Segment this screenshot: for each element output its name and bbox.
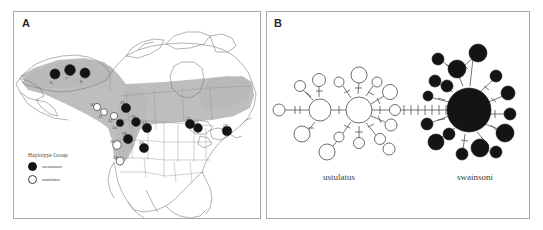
haplotype-node	[428, 134, 444, 150]
haplotype-node	[448, 60, 466, 78]
haplotype-node	[441, 80, 453, 92]
site-marker	[116, 119, 123, 126]
filled-circle-icon	[28, 162, 37, 171]
ustulatus-cluster-nodes	[273, 67, 401, 160]
site-marker	[80, 68, 90, 78]
legend-title: Haplotype Group	[28, 152, 68, 158]
haplotype-node	[429, 75, 441, 87]
panel-a-distribution-map: A	[13, 11, 261, 219]
legend-label-ustulatus: ustulatus	[42, 177, 60, 182]
haplotype-node-hub	[309, 99, 331, 121]
svg-text:16: 16	[131, 114, 136, 119]
site-marker	[50, 69, 60, 79]
svg-text:11: 11	[98, 114, 103, 119]
svg-text:14: 14	[112, 125, 117, 130]
svg-text:21: 21	[186, 116, 191, 121]
haplotype-node	[334, 132, 344, 142]
haplotype-node	[423, 91, 433, 101]
haplotype-node	[334, 77, 344, 87]
haplotype-node	[432, 53, 444, 65]
network-svg	[267, 12, 529, 218]
haplotype-node	[501, 86, 515, 100]
north-america-map: 6 7 8 10 11 12 13 14 16 17 18 19 20 15	[14, 12, 260, 218]
haplotype-node	[456, 148, 468, 160]
open-circle-icon	[28, 175, 37, 184]
taxon-label-ustulatus: ustulatus	[323, 172, 355, 182]
haplotype-node	[385, 119, 397, 131]
figure-container: A	[0, 0, 543, 230]
svg-text:17: 17	[142, 120, 147, 125]
haplotype-node	[313, 74, 326, 87]
haplotype-node	[390, 105, 401, 116]
haplotype-node-hub	[447, 88, 491, 132]
swainsoni-cluster-nodes	[421, 44, 516, 160]
svg-text:20: 20	[110, 139, 115, 144]
haplotype-node	[273, 104, 285, 116]
svg-text:19: 19	[139, 140, 144, 145]
haplotype-node	[496, 124, 514, 142]
haplotype-node	[421, 118, 433, 130]
svg-text:13: 13	[120, 100, 125, 105]
svg-text:22: 22	[194, 120, 199, 125]
haplotype-node	[375, 134, 386, 145]
haplotype-node	[372, 77, 382, 87]
svg-text:23: 23	[223, 123, 228, 128]
taxon-label-swainsoni: swainsoni	[457, 172, 493, 182]
haplotype-node	[319, 144, 335, 160]
legend-row-ustulatus: ustulatus	[28, 175, 68, 184]
svg-text:10: 10	[90, 102, 95, 107]
svg-text:18: 18	[122, 131, 127, 136]
panel-b-haplotype-network: B	[266, 11, 530, 219]
haplotype-node	[443, 128, 455, 140]
haplotype-node-hub	[346, 97, 372, 123]
legend-row-swainsoni: swainsoni	[28, 162, 68, 171]
haplotype-node	[295, 81, 306, 92]
svg-text:15: 15	[113, 155, 118, 160]
haplotype-node	[383, 143, 395, 155]
haplotype-node	[351, 67, 367, 83]
map-svg: 6 7 8 10 11 12 13 14 16 17 18 19 20 15	[14, 12, 260, 218]
svg-text:12: 12	[108, 118, 113, 123]
haplotype-node	[490, 146, 502, 158]
haplotype-node	[471, 139, 489, 157]
haplotype-node	[504, 108, 516, 120]
haplotype-node	[294, 126, 310, 142]
map-legend: Haplotype Group swainsoni ustulatus	[28, 152, 68, 184]
haplotype-node	[469, 44, 487, 62]
site-marker	[65, 65, 76, 76]
legend-label-swainsoni: swainsoni	[42, 164, 62, 169]
haplotype-network	[267, 12, 529, 218]
haplotype-node	[354, 138, 365, 149]
haplotype-node	[490, 70, 502, 82]
haplotype-node	[383, 85, 398, 100]
